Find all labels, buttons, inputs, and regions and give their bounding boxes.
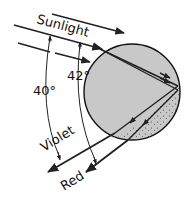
angle-40-label: 40° xyxy=(33,83,56,98)
red-ray xyxy=(86,140,128,172)
red-label: Red xyxy=(58,168,87,194)
violet-label: Violet xyxy=(38,122,77,154)
angle-42-label: 42° xyxy=(67,68,90,83)
sunlight-label: Sunlight xyxy=(35,11,91,39)
rainbow-diagram: Sunlight 40° 42° Violet Red xyxy=(0,0,190,200)
